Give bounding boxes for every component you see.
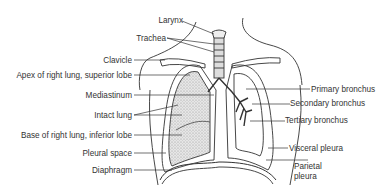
label-clavicle: Clavicle [60,56,132,65]
label-tertiary-bronchus: Tertiary bronchus [285,116,348,125]
label-larynx: Larynx [140,16,183,25]
label-parietal-pleura-line1: Parietal [294,162,322,171]
label-secondary-bronchus: Secondary bronchus [290,99,365,108]
label-apex-right-lung: Apex of right lung, superior lobe [0,71,132,80]
label-mediastinum: Mediastinum [40,91,132,100]
label-visceral-pleura: Visceral pleura [289,144,343,153]
label-base-right-lung: Base of right lung, inferior lobe [0,131,132,140]
label-parietal-pleura-line2: pleura [294,172,317,181]
label-pleural-space: Pleural space [40,149,132,158]
label-trachea: Trachea [120,34,166,43]
label-primary-bronchus: Primary bronchus [311,85,375,94]
label-diaphragm: Diaphragm [40,166,132,175]
lung-anatomy-diagram: Larynx Trachea Clavicle Apex of right lu… [0,0,388,190]
label-intact-lung: Intact lung [40,111,132,120]
